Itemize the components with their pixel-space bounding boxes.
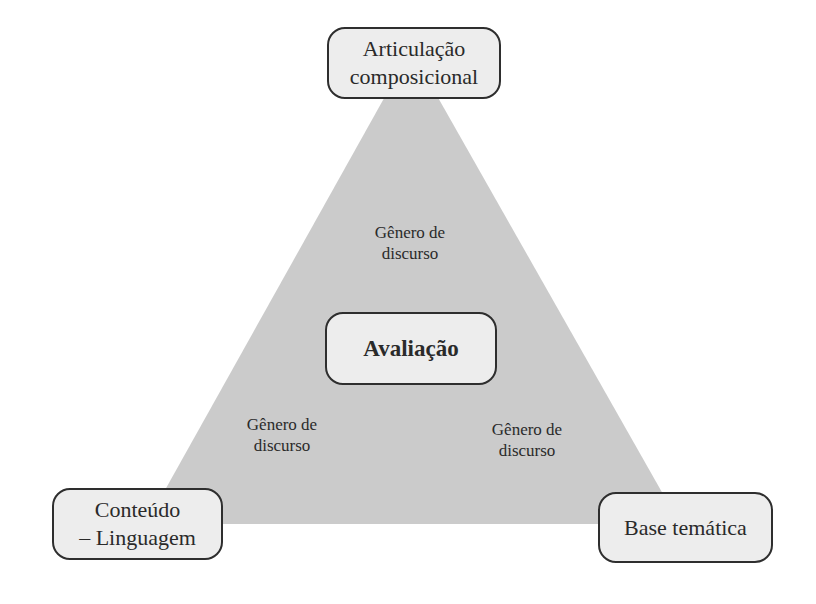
edge-label-line: discurso [467,440,587,461]
edge-label-right: Gênero de discurso [467,419,587,461]
node-articulacao-composicional: Articulação composicional [327,27,501,99]
edge-label-line: Gênero de [350,222,470,243]
node-label-line: Base temática [624,514,747,542]
edge-label-line: Gênero de [467,419,587,440]
triangle-diagram: Articulação composicional Gênero de disc… [0,0,816,604]
node-conteudo-linguagem: Conteúdo – Linguagem [52,488,223,560]
node-label-line: Conteúdo [95,496,181,524]
node-base-tematica: Base temática [598,492,773,563]
edge-label-line: discurso [350,243,470,264]
node-label-line: – Linguagem [79,524,196,552]
edge-label-line: discurso [222,435,342,456]
node-label-line: Articulação [363,35,466,63]
edge-label-top: Gênero de discurso [350,222,470,264]
node-label-line: Avaliação [363,335,458,363]
edge-label-line: Gênero de [222,414,342,435]
node-avaliacao: Avaliação [325,312,497,385]
edge-label-left: Gênero de discurso [222,414,342,456]
node-label-line: composicional [350,63,478,91]
